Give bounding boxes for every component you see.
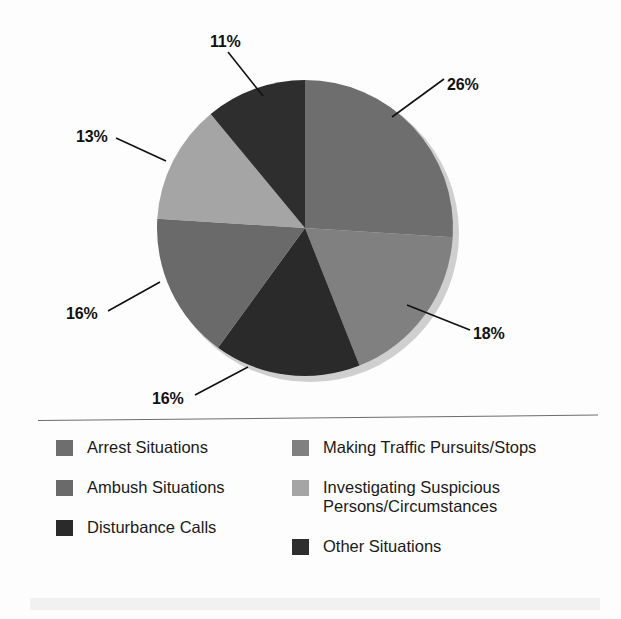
pie-label-16-percent-disturbance: 16%: [152, 390, 183, 408]
bottom-band: [30, 598, 600, 610]
pie-slice[interactable]: [305, 80, 453, 237]
pie-slices-group: [157, 80, 453, 376]
legend-item-label: Arrest Situations: [87, 438, 208, 457]
legend-item-label: Disturbance Calls: [87, 518, 216, 537]
pie-label-13-percent: 13%: [76, 128, 107, 146]
pie-chart-area: 11% 26% 13% 18% 16% 16%: [0, 0, 621, 412]
legend-item-ambush-situations[interactable]: Ambush Situations: [56, 478, 296, 497]
pie-chart-svg: [0, 0, 621, 412]
pie-chart-figure: 11% 26% 13% 18% 16% 16% Arrest Situation…: [0, 0, 621, 619]
pie-label-16-percent-ambush: 16%: [66, 305, 97, 323]
chart-legend: Arrest Situations Ambush Situations Dist…: [0, 438, 621, 588]
legend-item-label: Making Traffic Pursuits/Stops: [323, 438, 536, 457]
leader-line-13: [116, 138, 166, 161]
leader-line-26: [392, 79, 444, 117]
pie-label-18-percent: 18%: [473, 325, 504, 343]
legend-item-arrest-situations[interactable]: Arrest Situations: [56, 438, 296, 457]
legend-swatch-icon: [292, 440, 309, 456]
legend-item-making-traffic-pursuits-stops[interactable]: Making Traffic Pursuits/Stops: [292, 438, 612, 457]
pie-label-26-percent: 26%: [447, 76, 478, 94]
legend-swatch-icon: [292, 480, 309, 496]
pie-label-11-percent: 11%: [210, 33, 241, 51]
leader-line-16-bottom: [195, 367, 248, 395]
legend-swatch-icon: [56, 440, 73, 456]
leader-line-16-left: [108, 282, 160, 311]
legend-item-investigating-suspicious-persons[interactable]: Investigating Suspicious Persons/Circums…: [292, 478, 612, 516]
leader-line-11: [228, 52, 263, 96]
legend-item-other-situations[interactable]: Other Situations: [292, 537, 612, 556]
legend-item-label: Investigating Suspicious Persons/Circums…: [323, 478, 500, 516]
legend-column-right: Making Traffic Pursuits/Stops Investigat…: [292, 438, 612, 577]
legend-swatch-icon: [292, 539, 309, 555]
legend-swatch-icon: [56, 480, 73, 496]
legend-item-label: Other Situations: [323, 537, 441, 556]
legend-divider-rule: [38, 415, 598, 421]
legend-item-label: Ambush Situations: [87, 478, 225, 497]
legend-column-left: Arrest Situations Ambush Situations Dist…: [56, 438, 296, 558]
legend-item-disturbance-calls[interactable]: Disturbance Calls: [56, 518, 296, 537]
legend-swatch-icon: [56, 520, 73, 536]
